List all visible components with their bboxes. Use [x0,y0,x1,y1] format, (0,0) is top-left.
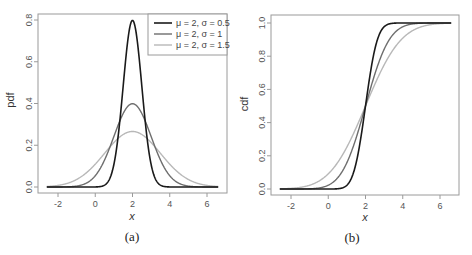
cdf-y-axis: 0.00.20.40.60.81.0 [257,17,271,196]
cdf-x-axis: -20246 [287,195,443,211]
pdf-caption: (a) [125,229,139,244]
x-tick-label: -2 [287,201,295,211]
cdf-curves [280,23,451,189]
pdf-x-axis: -20246 [54,193,210,209]
curve-21 [47,104,218,187]
curve-20-5 [280,23,451,189]
y-tick-label: 0.2 [24,139,34,152]
x-tick-label: 2 [130,199,135,209]
x-tick-label: 0 [93,199,98,209]
y-tick-label: 0.0 [257,183,267,196]
x-tick-label: -2 [54,199,62,209]
y-tick-label: 0.0 [24,181,34,194]
pdf-y-axis-title: pdf [4,91,16,107]
x-tick-label: 6 [437,201,442,211]
figure: 0.00.20.40.60.8 -20246 pdf x (a) μ = 2, … [0,0,472,255]
pdf-panel: 0.00.20.40.60.8 -20246 pdf x (a) μ = 2, … [4,14,230,244]
y-tick-label: 0.8 [24,14,34,27]
y-tick-label: 1.0 [257,17,267,30]
y-tick-label: 0.4 [257,116,267,129]
legend-label: μ = 2, σ = 1 [176,29,222,39]
pdf-y-axis: 0.00.20.40.60.8 [24,14,38,194]
y-tick-label: 0.8 [257,50,267,63]
y-tick-label: 0.6 [257,83,267,96]
curve-21-5 [47,131,218,186]
cdf-panel: 0.00.20.40.60.81.0 -20246 cdf x (b) [238,15,459,245]
x-tick-label: 2 [363,201,368,211]
cdf-caption: (b) [344,230,359,245]
legend-label: μ = 2, σ = 0.5 [176,18,230,28]
pdf-x-axis-title: x [128,210,135,222]
y-tick-label: 0.6 [24,55,34,68]
x-tick-label: 6 [204,199,209,209]
cdf-y-axis-title: cdf [238,96,250,112]
cdf-x-axis-title: x [361,211,368,223]
y-tick-label: 0.2 [257,150,267,163]
y-tick-label: 0.4 [24,97,34,110]
legend-label: μ = 2, σ = 1.5 [176,40,230,50]
legend: μ = 2, σ = 0.5 μ = 2, σ = 1 μ = 2, σ = 1… [148,14,230,55]
x-tick-label: 0 [326,201,331,211]
x-tick-label: 4 [400,201,405,211]
x-tick-label: 4 [167,199,172,209]
